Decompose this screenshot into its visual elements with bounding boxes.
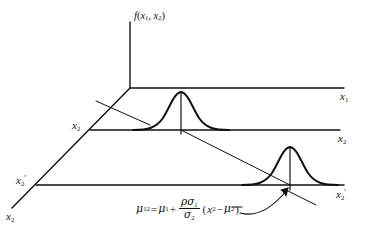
connector-mean-line (181, 130, 290, 185)
formula-mu12-sub: 12 (143, 205, 150, 212)
axis-label-x2-depth-bottom: x2 (6, 211, 14, 223)
lower-plane-edge-stroke (286, 190, 316, 205)
annotation-arrow-curve (240, 190, 287, 214)
axis-label-x2-right: x2 (338, 133, 346, 145)
pointer-line-upper-curve (96, 101, 150, 125)
x2p-right-prime: ′ (344, 187, 346, 197)
figure-canvas: f(x1, x2) x1 x2 x2′ x2 x2′ x2 μ12 = μ1 +… (0, 0, 366, 232)
vertical-axis-label: f(x1, x2) (134, 11, 165, 22)
axis-label-x2-prime-left: x2′ (16, 174, 26, 187)
formula-equals: = (150, 203, 158, 215)
x1-right-sub: 1 (345, 96, 348, 103)
formula-mu2: μ (224, 202, 231, 215)
x2-left-sub: 2 (77, 125, 80, 132)
fn-close-paren: ) (162, 10, 166, 21)
axis-label-x2-left: x2 (72, 120, 80, 132)
formula-plus: + (169, 203, 177, 215)
x2-right-sub: 2 (343, 138, 346, 145)
formula-frac-numerator: ρσ1 (179, 196, 200, 208)
x2p-left-prime: ′ (24, 173, 26, 183)
formula-group-close: ) (234, 203, 240, 215)
formula-mu12: μ (136, 202, 143, 215)
x2-depth-sub: 2 (11, 216, 14, 223)
axis-label-x2-prime-right: x2′ (336, 188, 346, 201)
axis-label-x1-right: x1 (340, 91, 348, 103)
axis-x2-depth (12, 88, 130, 208)
fn-comma: , (148, 10, 151, 21)
formula-mu1: μ (158, 202, 165, 215)
formula-minus: − (216, 203, 224, 215)
formula-frac-denominator: σ2 (182, 209, 196, 221)
conditional-mean-formula: μ12 = μ1 + ρσ1 σ2 (x2−μ2) (136, 196, 240, 222)
annotation-arrow-head (281, 188, 288, 196)
formula-fraction: ρσ1 σ2 (179, 196, 200, 222)
